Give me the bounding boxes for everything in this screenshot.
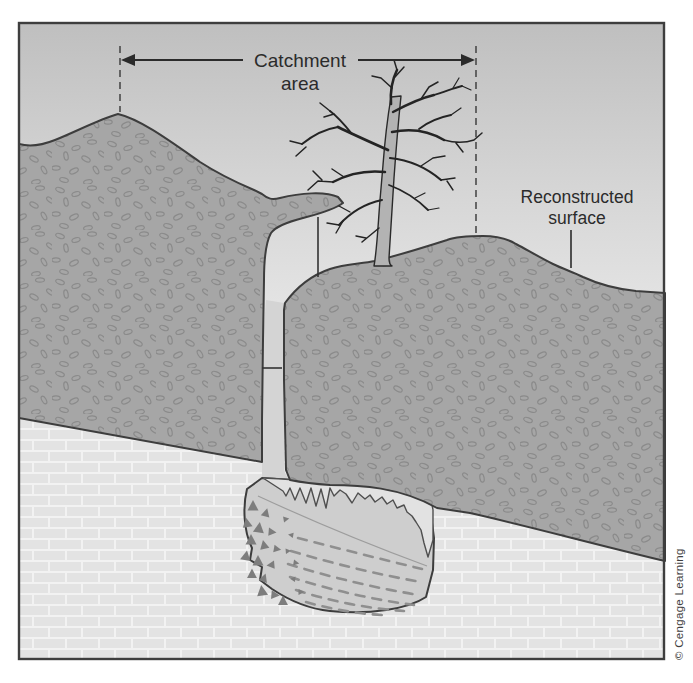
catchment-label-line1: Catchment bbox=[254, 50, 347, 71]
reconstructed-label-line2: surface bbox=[548, 208, 605, 228]
catchment-label-line2: area bbox=[281, 73, 319, 94]
diagram-canvas: Catchment area Reconstructed surface © C… bbox=[0, 0, 693, 683]
figure-cross-section: Catchment area Reconstructed surface © C… bbox=[0, 0, 693, 683]
credit-text: © Cengage Learning bbox=[673, 548, 685, 660]
reconstructed-label-line1: Reconstructed bbox=[521, 187, 634, 207]
